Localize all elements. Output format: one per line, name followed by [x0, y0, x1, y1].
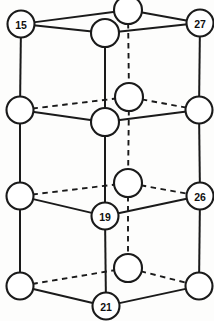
lattice-edge-visible	[33, 25, 92, 31]
lattice-node[interactable]	[115, 83, 143, 111]
lattice-edge-visible	[199, 208, 200, 273]
lattice-node[interactable]	[114, 0, 142, 24]
lattice-edge-visible	[118, 289, 187, 304]
lattice-node[interactable]	[186, 273, 213, 300]
lattice-edge-hidden	[141, 185, 188, 193]
lattice-node[interactable]: 21	[93, 293, 120, 320]
lattice-node[interactable]	[186, 97, 213, 124]
lattice-node[interactable]: 19	[92, 203, 119, 230]
lattice-node[interactable]	[7, 183, 34, 210]
lattice-node-circle[interactable]	[115, 83, 143, 111]
lattice-edge-hidden	[32, 185, 115, 195]
lattice-node[interactable]	[91, 108, 119, 136]
lattice-edge-visible	[32, 199, 93, 213]
lattice-edge-visible	[199, 35, 200, 97]
hidden-edge-group	[32, 23, 187, 284]
node-group: 1527261921	[7, 0, 214, 320]
lattice-node-circle[interactable]	[186, 273, 213, 300]
lattice-edge-visible	[20, 36, 21, 97]
lattice-diagram-canvas: 1527261921	[0, 0, 214, 321]
lattice-edge-visible	[32, 289, 94, 303]
lattice-node-circle[interactable]	[91, 19, 119, 47]
lattice-node-circle[interactable]	[7, 183, 34, 210]
lattice-node-label: 27	[194, 18, 206, 30]
lattice-node-circle[interactable]	[7, 273, 34, 300]
lattice-figure: 1527261921	[0, 0, 214, 321]
lattice-node-circle[interactable]	[91, 108, 119, 136]
lattice-node-label: 15	[15, 19, 27, 31]
lattice-edge-visible	[32, 112, 92, 120]
lattice-node[interactable]: 27	[187, 10, 214, 37]
lattice-node-label: 21	[100, 301, 112, 313]
lattice-node[interactable]	[114, 169, 142, 197]
lattice-node-label: 26	[194, 191, 206, 203]
lattice-node-circle[interactable]	[114, 254, 142, 282]
lattice-node-circle[interactable]	[186, 97, 213, 124]
lattice-node-label: 19	[99, 211, 111, 223]
lattice-edge-hidden	[141, 271, 187, 283]
lattice-node[interactable]	[7, 273, 34, 300]
lattice-node[interactable]	[114, 254, 142, 282]
lattice-edge-hidden	[142, 99, 187, 107]
visible-edge-group	[20, 12, 200, 304]
lattice-edge-visible	[105, 228, 106, 293]
lattice-edge-hidden	[32, 270, 115, 284]
lattice-node[interactable]	[91, 19, 119, 47]
lattice-node[interactable]	[7, 97, 34, 124]
lattice-node-circle[interactable]	[7, 97, 34, 124]
lattice-edge-hidden	[128, 23, 129, 84]
lattice-node-circle[interactable]	[114, 0, 142, 24]
lattice-node-circle[interactable]	[114, 169, 142, 197]
lattice-edge-visible	[199, 122, 200, 183]
lattice-node[interactable]: 15	[8, 11, 35, 38]
lattice-node[interactable]: 26	[187, 183, 214, 210]
lattice-edge-visible	[141, 12, 188, 20]
